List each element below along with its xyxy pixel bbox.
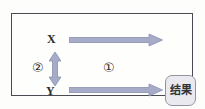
y-right-arrow-shape <box>69 84 163 96</box>
x-right-arrow <box>69 33 163 47</box>
x-y-double-arrow-shape <box>49 52 61 86</box>
y-right-arrow <box>69 83 163 97</box>
x-right-arrow-shape <box>69 34 163 46</box>
diagram-canvas: X ② ① Y 结果 <box>0 0 205 109</box>
result-box-label: 结果 <box>170 85 192 96</box>
x-y-double-arrow <box>49 52 61 86</box>
diagram-frame: X ② ① Y 结果 <box>11 13 193 96</box>
node-y-label: Y <box>46 85 55 97</box>
arrow-2-label: ② <box>32 61 44 74</box>
arrow-1-label: ① <box>103 61 115 74</box>
result-box: 结果 <box>165 75 196 106</box>
node-x-label: X <box>47 33 56 45</box>
